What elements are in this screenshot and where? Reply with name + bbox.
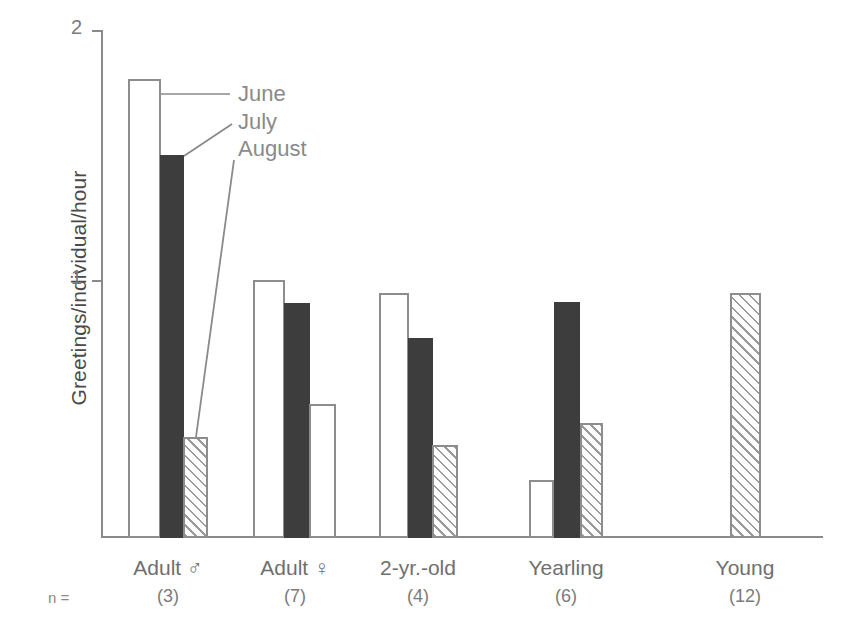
category-n-adult-female: (7) [225, 586, 365, 607]
category-label-adult-male: Adult ♂ [98, 556, 238, 580]
category-n-2yr-old: (4) [348, 586, 488, 607]
category-label-young: Young [675, 556, 815, 580]
n-equals-label: n = [48, 589, 69, 606]
legend-label-june: June [238, 81, 286, 107]
category-label-yearling: Yearling [496, 556, 636, 580]
legend-leader-lines [0, 0, 847, 627]
category-n-adult-male: (3) [98, 586, 238, 607]
category-label-2yr-old: 2-yr.-old [348, 556, 488, 580]
bar-chart: Greetings/individual/hour 2 1 June July … [0, 0, 847, 627]
legend-label-august: August [238, 136, 307, 162]
category-n-young: (12) [675, 586, 815, 607]
category-n-yearling: (6) [496, 586, 636, 607]
legend-label-july: July [238, 109, 277, 135]
category-label-adult-female: Adult ♀ [225, 556, 365, 580]
